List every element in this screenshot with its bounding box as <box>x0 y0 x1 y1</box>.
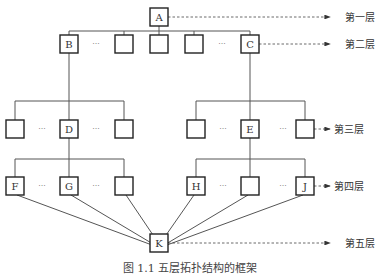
layer-label-4: 第四层 <box>334 180 364 192</box>
ellipsis: ··· <box>219 181 227 190</box>
node-unlabeled <box>115 177 133 195</box>
ellipsis: ··· <box>219 124 227 133</box>
ellipsis: ··· <box>38 124 46 133</box>
node-unlabeled <box>187 120 205 138</box>
node-label: A <box>154 12 163 23</box>
node-unlabeled <box>296 120 314 138</box>
node-unlabeled <box>6 120 24 138</box>
ellipsis: ··· <box>279 124 287 133</box>
node-label: D <box>65 124 73 135</box>
ellipsis: ··· <box>92 181 100 190</box>
ellipsis: ··· <box>218 39 226 48</box>
node-unlabeled <box>115 35 133 53</box>
node-j: J <box>296 177 314 195</box>
figure-caption: 图 1.1 五层拓扑结构的框架 <box>0 259 380 275</box>
nodes: ABCDEFGHJK <box>6 8 314 252</box>
node-h: H <box>187 177 205 195</box>
layer-label-5: 第五层 <box>345 237 375 249</box>
node-unlabeled <box>115 120 133 138</box>
node-label: C <box>246 39 254 50</box>
connectors-layer1-2 <box>69 26 250 35</box>
node-label: K <box>155 238 163 249</box>
node-f: F <box>6 177 24 195</box>
node-unlabeled <box>185 35 203 53</box>
ellipsis: ··· <box>92 124 100 133</box>
node-label: G <box>65 181 73 192</box>
layer-label-3: 第三层 <box>334 123 364 135</box>
node-label: H <box>192 181 201 192</box>
ellipsis: ··· <box>279 181 287 190</box>
layer-labels: 第一层 第二层 第三层 第四层 第五层 <box>334 11 375 249</box>
node-k: K <box>150 234 168 252</box>
node-label: J <box>302 181 307 192</box>
connectors-layer3-4 <box>15 138 305 177</box>
node-e: E <box>241 120 259 138</box>
node-b: B <box>60 35 78 53</box>
node-unlabeled <box>241 177 259 195</box>
layer-label-1: 第一层 <box>345 11 375 23</box>
layer-label-2: 第二层 <box>345 38 375 50</box>
node-label: B <box>65 39 72 50</box>
node-label: E <box>246 124 253 135</box>
ellipsis: ··· <box>38 181 46 190</box>
ellipsis: ··· <box>92 39 100 48</box>
node-g: G <box>60 177 78 195</box>
node-c: C <box>241 35 259 53</box>
node-label: F <box>12 181 19 192</box>
node-unlabeled <box>150 35 168 53</box>
node-a: A <box>150 8 168 26</box>
connectors-layer2-3 <box>15 53 305 120</box>
node-d: D <box>60 120 78 138</box>
